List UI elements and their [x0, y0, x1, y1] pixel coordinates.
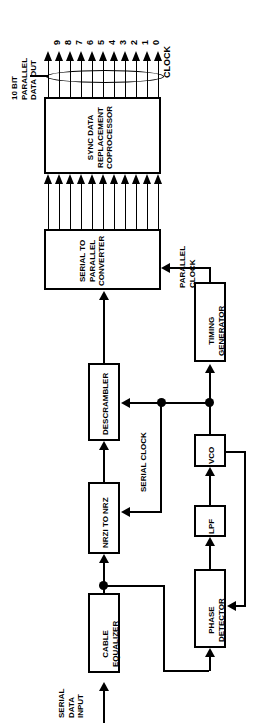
block-phase-detector-label: PHASE DETECTOR — [207, 598, 226, 642]
nrzi-output-arrowhead — [99, 441, 109, 450]
block-descrambler[interactable]: DESCRAMBLER — [88, 363, 120, 441]
block-lpf[interactable]: LPF — [194, 505, 226, 537]
block-cable-equalizer-label: CABLE EQUALIZER — [101, 621, 120, 667]
serial-data-input-line-2: DATA — [67, 689, 77, 718]
cop-in-line-9 — [48, 183, 49, 229]
parallel-data-out-line-2: PARALLEL — [20, 58, 30, 100]
lpf-output-line — [209, 476, 211, 506]
block-serial-to-parallel-label: SERIAL TO PARALLEL CONVERTER — [78, 236, 107, 286]
phase-detector-output-arrowhead — [205, 537, 215, 546]
cop-in-line-1 — [136, 183, 137, 229]
bus-port-label-3: 3 — [118, 40, 128, 45]
cop-in-line-clock — [158, 183, 159, 229]
bus-port-label-7: 7 — [74, 40, 84, 45]
serial-data-input-line-3: INPUT — [76, 689, 86, 718]
parallel-data-out-label: 10 BIT PARALLEL DATA OUT — [10, 58, 39, 100]
cable-equalizer-tap-vertical — [163, 585, 165, 672]
cop-in-line-5 — [92, 183, 93, 229]
vco-feedback-horizontal-bottom — [236, 605, 246, 607]
phase-detector-line-2: DETECTOR — [217, 598, 227, 642]
descrambler-output-line — [103, 300, 105, 363]
parallel-clock-arrowhead — [161, 263, 170, 273]
block-lpf-label: LPF — [207, 519, 217, 534]
block-vco[interactable]: VCO — [194, 434, 226, 467]
phase-detector-line-1: PHASE — [207, 598, 217, 642]
parallel-clock-horizontal — [170, 267, 211, 269]
cable-equalizer-tap-horizontal — [103, 585, 165, 587]
serial-to-parallel-line-3: CONVERTER — [97, 236, 107, 286]
serial-to-parallel-line-1: SERIAL TO — [78, 236, 88, 286]
bus-port-label-6: 6 — [85, 40, 95, 45]
block-phase-detector[interactable]: PHASE DETECTOR — [194, 569, 226, 648]
block-diagram-canvas: 9 8 7 6 5 4 3 2 1 0 CLOCK 10 BIT PARALLE… — [0, 0, 254, 725]
serial-data-input-arrowhead — [99, 682, 109, 691]
parallel-clock-vertical — [209, 267, 211, 283]
nrzi-output-line — [103, 450, 105, 482]
bus-port-label-0: 0 — [151, 40, 161, 45]
coprocessor-line-3: COPROCESSOR — [105, 106, 115, 169]
block-cable-equalizer[interactable]: CABLE EQUALIZER — [88, 593, 120, 673]
serial-data-input-line-1: SERIAL — [57, 689, 67, 718]
vco-output-line — [209, 403, 211, 435]
block-timing-generator-label: TIMING GENERATOR — [207, 306, 226, 356]
block-nrzi-to-nrz[interactable]: NRZI TO NRZ — [88, 482, 120, 554]
block-serial-to-parallel-converter[interactable]: SERIAL TO PARALLEL CONVERTER — [44, 229, 161, 290]
nrzi-to-nrz-line-1: NRZI TO NRZ — [101, 497, 111, 548]
bus-port-label-5: 5 — [96, 40, 106, 45]
cop-in-line-3 — [114, 183, 115, 229]
cop-in-line-6 — [81, 183, 82, 229]
block-nrzi-to-nrz-label: NRZI TO NRZ — [101, 497, 111, 548]
cop-in-line-4 — [103, 183, 104, 229]
block-coprocessor-label: SYNC DATA REPLACEMENT COPROCESSOR — [86, 106, 115, 169]
serial-data-input-line — [103, 691, 105, 723]
block-coprocessor[interactable]: SYNC DATA REPLACEMENT COPROCESSOR — [44, 97, 161, 174]
phase-detector-input-vertical — [209, 657, 211, 671]
descrambler-line-1: DESCRAMBLER — [101, 373, 111, 435]
coprocessor-line-1: SYNC DATA — [86, 106, 96, 169]
bus-port-label-8: 8 — [63, 40, 73, 45]
vco-feedback-vertical — [244, 451, 246, 606]
cable-equalizer-line-2: EQUALIZER — [111, 621, 121, 667]
serial-data-input-label: SERIAL DATA INPUT — [57, 689, 86, 718]
lpf-line-1: LPF — [207, 519, 217, 534]
block-vco-label: VCO — [207, 447, 217, 464]
parallel-data-out-line-3: DATA OUT — [29, 58, 39, 100]
serial-clock-branch-horizontal — [130, 511, 162, 513]
phase-detector-output-line — [209, 546, 211, 570]
vco-feedback-arrowhead — [227, 601, 236, 611]
block-timing-generator[interactable]: TIMING GENERATOR — [194, 282, 226, 362]
cable-equalizer-output-arrowhead — [99, 554, 109, 563]
coprocessor-line-2: REPLACEMENT — [96, 106, 106, 169]
bus-port-label-2: 2 — [129, 40, 139, 45]
lpf-output-arrowhead — [205, 467, 215, 476]
bus-port-label-4: 4 — [107, 40, 117, 45]
cable-equalizer-line-1: CABLE — [101, 621, 111, 667]
cable-equalizer-output-line — [103, 563, 105, 595]
cop-in-line-0 — [147, 183, 148, 229]
vco-feedback-horizontal-top — [226, 451, 246, 453]
serial-clock-branch-vertical — [160, 402, 162, 512]
serial-to-parallel-line-2: PARALLEL — [88, 236, 98, 286]
bus-port-label-1: 1 — [140, 40, 150, 45]
serial-clock-descrambler-arrowhead — [121, 398, 130, 408]
phase-detector-input-arrowhead — [205, 648, 215, 657]
block-descrambler-label: DESCRAMBLER — [101, 373, 111, 435]
bus-port-label-9: 9 — [52, 40, 62, 45]
parallel-data-out-line-1: 10 BIT — [10, 58, 20, 100]
descrambler-output-arrowhead — [99, 291, 109, 300]
vco-line-1: VCO — [207, 447, 217, 464]
timing-generator-line-1: TIMING — [207, 306, 217, 356]
serial-clock-label: SERIAL CLOCK — [139, 432, 148, 492]
serial-clock-nrzi-arrowhead — [121, 507, 130, 517]
cop-in-line-7 — [70, 183, 71, 229]
timing-generator-line-2: GENERATOR — [217, 306, 227, 356]
parallel-bus-marker — [46, 70, 164, 83]
timing-generator-input-arrowhead — [205, 364, 215, 373]
cop-in-line-2 — [125, 183, 126, 229]
cop-in-line-8 — [59, 183, 60, 229]
serial-clock-bus-horizontal — [130, 402, 210, 404]
bus-port-label-clock: CLOCK — [162, 46, 172, 78]
phase-detector-input-horizontal — [163, 670, 209, 672]
